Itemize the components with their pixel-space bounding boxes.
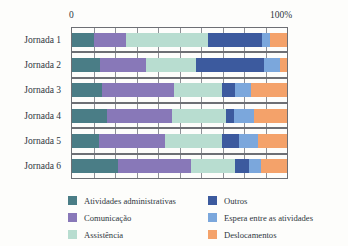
row-divider (72, 52, 287, 53)
bar-segment[interactable] (208, 33, 262, 47)
y-axis-label: Jornada 4 (24, 111, 61, 121)
bar-segment[interactable] (262, 33, 270, 47)
legend-swatch-icon (68, 230, 77, 239)
stacked-bar[interactable] (72, 58, 287, 72)
stacked-bar[interactable] (72, 33, 287, 47)
bar-segment[interactable] (251, 83, 287, 97)
x-axis-tick-100: 100% (270, 10, 292, 20)
bar-segment[interactable] (107, 109, 172, 123)
legend-item[interactable]: Outros (208, 192, 348, 209)
y-axis-label: Jornada 2 (24, 60, 61, 70)
legend-column: Atividades administrativasComunicaçãoAss… (68, 192, 208, 243)
stacked-bar-chart: 0 100% Jornada 1Jornada 2Jornada 3Jornad… (0, 0, 348, 246)
plot-area (71, 27, 288, 179)
bar-row (72, 78, 287, 103)
bar-segment[interactable] (239, 134, 258, 148)
bar-segment[interactable] (146, 58, 195, 72)
legend-label: Outros (224, 196, 247, 206)
bar-segment[interactable] (174, 83, 223, 97)
bar-segment[interactable] (264, 58, 280, 72)
legend-item[interactable]: Comunicação (68, 209, 208, 226)
stacked-bar[interactable] (72, 83, 287, 97)
bar-segment[interactable] (249, 159, 261, 173)
bar-segment[interactable] (196, 58, 264, 72)
bar-segment[interactable] (235, 83, 251, 97)
bar-row (72, 154, 287, 179)
x-axis-tick-0: 0 (69, 10, 74, 20)
bar-segment[interactable] (258, 134, 287, 148)
legend-column: OutrosEspera entre as atividadesDeslocam… (208, 192, 348, 243)
stacked-bar[interactable] (72, 109, 287, 123)
y-axis-label: Jornada 5 (24, 136, 61, 146)
bar-segment[interactable] (72, 109, 107, 123)
x-axis-labels: 0 100% (0, 10, 348, 24)
bar-segment[interactable] (222, 134, 240, 148)
bar-segment[interactable] (118, 159, 191, 173)
bar-segment[interactable] (226, 109, 235, 123)
bar-segment[interactable] (222, 83, 235, 97)
legend-item[interactable]: Deslocamentos (208, 226, 348, 243)
row-divider (72, 178, 287, 179)
legend-swatch-icon (208, 213, 217, 222)
bar-segment[interactable] (165, 134, 222, 148)
chart-legend: Atividades administrativasComunicaçãoAss… (68, 192, 348, 243)
bar-row (72, 52, 287, 77)
bar-segment[interactable] (254, 109, 287, 123)
bar-segment[interactable] (72, 33, 94, 47)
legend-swatch-icon (68, 213, 77, 222)
bar-segment[interactable] (126, 33, 207, 47)
y-axis-label: Jornada 1 (24, 35, 61, 45)
bar-segment[interactable] (191, 159, 236, 173)
y-axis-label-slot: Jornada 1 (0, 27, 68, 52)
row-divider (72, 128, 287, 129)
y-axis-label: Jornada 3 (24, 85, 61, 95)
bar-segment[interactable] (235, 159, 249, 173)
legend-label: Comunicação (84, 213, 131, 223)
bar-segment[interactable] (99, 134, 165, 148)
row-divider (72, 78, 287, 79)
row-divider (72, 27, 287, 28)
legend-swatch-icon (208, 196, 217, 205)
legend-label: Atividades administrativas (84, 196, 176, 206)
y-axis-label-slot: Jornada 6 (0, 154, 68, 179)
y-axis-label: Jornada 6 (24, 161, 61, 171)
legend-label: Deslocamentos (224, 230, 277, 240)
bar-segment[interactable] (102, 83, 174, 97)
legend-swatch-icon (68, 196, 77, 205)
y-axis-label-slot: Jornada 4 (0, 103, 68, 128)
bar-row (72, 27, 287, 52)
bar-segment[interactable] (172, 109, 226, 123)
stacked-bar[interactable] (72, 159, 287, 173)
bar-segment[interactable] (270, 33, 287, 47)
bar-segment[interactable] (94, 33, 127, 47)
bar-segment[interactable] (72, 83, 102, 97)
bar-segment[interactable] (261, 159, 287, 173)
legend-label: Assistência (84, 230, 123, 240)
legend-label: Espera entre as atividades (224, 213, 313, 223)
bar-rows (72, 27, 287, 179)
bar-row (72, 128, 287, 153)
row-divider (72, 154, 287, 155)
bar-segment[interactable] (72, 159, 118, 173)
y-axis-category-labels: Jornada 1Jornada 2Jornada 3Jornada 4Jorn… (0, 27, 68, 179)
row-divider (72, 103, 287, 104)
legend-item[interactable]: Atividades administrativas (68, 192, 208, 209)
legend-swatch-icon (208, 230, 217, 239)
bar-segment[interactable] (100, 58, 147, 72)
bar-segment[interactable] (234, 109, 254, 123)
bar-row (72, 103, 287, 128)
y-axis-label-slot: Jornada 3 (0, 78, 68, 103)
legend-item[interactable]: Assistência (68, 226, 208, 243)
bar-segment[interactable] (280, 58, 287, 72)
stacked-bar[interactable] (72, 134, 287, 148)
legend-item[interactable]: Espera entre as atividades (208, 209, 348, 226)
y-axis-label-slot: Jornada 2 (0, 52, 68, 77)
y-axis-label-slot: Jornada 5 (0, 128, 68, 153)
bar-segment[interactable] (72, 134, 99, 148)
bar-segment[interactable] (72, 58, 100, 72)
